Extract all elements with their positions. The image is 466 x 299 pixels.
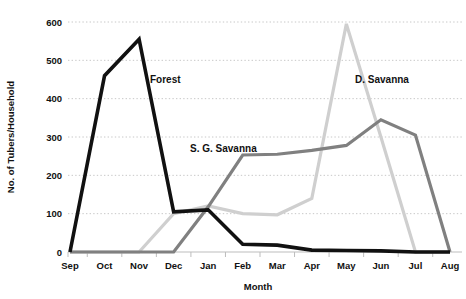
x-tick-label-feb: Feb	[234, 260, 251, 271]
x-tick-label-sep: Sep	[61, 260, 79, 271]
series-annotations-group: ForestS. G. SavannaD. Savanna	[150, 74, 409, 154]
x-tick-label-jul: Jul	[409, 260, 423, 271]
y-tick-labels-group: 0100200300400500600	[46, 17, 62, 258]
series-line-forest	[70, 39, 450, 252]
x-tick-label-may: May	[337, 260, 356, 271]
x-tick-label-mar: Mar	[269, 260, 286, 271]
y-axis-title: No. of Tubers/Household	[5, 81, 16, 193]
series-lines-group	[70, 24, 450, 252]
x-tick-labels-group: SepOctNovDecJanFebMarAprMayJunJulAug	[61, 260, 459, 271]
series-label-s-g-savanna: S. G. Savanna	[190, 143, 257, 154]
y-tick-label: 200	[46, 170, 62, 181]
x-tick-label-nov: Nov	[130, 260, 149, 271]
y-tick-label: 300	[46, 132, 62, 143]
series-line-s-g-savanna	[70, 120, 450, 252]
y-tick-label: 400	[46, 93, 62, 104]
y-tick-label: 500	[46, 55, 62, 66]
y-tick-label: 100	[46, 208, 62, 219]
x-tick-label-apr: Apr	[304, 260, 321, 271]
line-chart: 0100200300400500600 SepOctNovDecJanFebMa…	[0, 0, 466, 299]
y-tick-label: 600	[46, 17, 62, 28]
x-axis-title: Month	[244, 281, 273, 292]
x-tick-label-jun: Jun	[372, 260, 389, 271]
series-label-d-savanna: D. Savanna	[355, 74, 409, 85]
x-tick-label-jan: Jan	[200, 260, 217, 271]
series-label-forest: Forest	[150, 74, 181, 85]
x-tick-label-dec: Dec	[165, 260, 182, 271]
series-line-d-savanna	[70, 24, 450, 252]
chart-container: 0100200300400500600 SepOctNovDecJanFebMa…	[0, 0, 466, 299]
x-tick-label-oct: Oct	[97, 260, 114, 271]
y-tick-label: 0	[57, 247, 62, 258]
x-tick-label-aug: Aug	[441, 260, 460, 271]
